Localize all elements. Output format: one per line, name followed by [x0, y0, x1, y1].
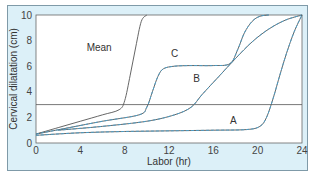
- curve-label-mean: Mean: [87, 42, 112, 53]
- y-tick-label: 6: [26, 61, 32, 72]
- x-tick-label: 0: [33, 145, 39, 156]
- x-tick-label: 24: [296, 145, 308, 156]
- y-tick-label: 4: [26, 86, 32, 97]
- x-tick-label: 4: [78, 145, 84, 156]
- x-tick-label: 16: [208, 145, 220, 156]
- x-axis-label: Labor (hr): [147, 156, 191, 167]
- y-axis-label: Cervical dilatation (cm): [8, 28, 19, 130]
- curve-label-c: C: [171, 48, 178, 59]
- curve-label-b: B: [193, 73, 200, 84]
- x-tick-label: 12: [163, 145, 175, 156]
- y-tick-label: 10: [21, 10, 33, 21]
- y-tick-label: 2: [26, 112, 32, 123]
- y-tick-label: 0: [26, 138, 32, 149]
- y-tick-label: 8: [26, 35, 32, 46]
- line-chart: 0246810 04812162024 MeanCBA Labor (hr) C…: [0, 0, 315, 180]
- x-tick-label: 8: [122, 145, 128, 156]
- x-tick-label: 20: [252, 145, 264, 156]
- curve-label-a: A: [230, 115, 237, 126]
